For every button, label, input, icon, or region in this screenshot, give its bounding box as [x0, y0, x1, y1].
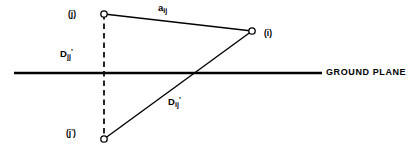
node-j-prime-label: (j') [66, 128, 76, 138]
edge-label-a-ij: aij [158, 3, 167, 14]
edge-label-d-jj-prime-base: D [60, 48, 67, 59]
image-conductor-diagram: (j) (i) (j') aij Djj' Dij' GROUND PLANE [0, 0, 418, 152]
node-j-prime-circle [101, 136, 107, 142]
node-i-label: (i) [264, 29, 272, 38]
node-j-circle [101, 11, 107, 17]
node-j-label: (j) [68, 10, 76, 19]
edge-label-d-jj-prime-prime: ' [71, 47, 73, 56]
edge-label-d-jj-prime: Djj' [60, 48, 73, 60]
node-i-circle [249, 28, 255, 34]
node-j-prime-label-close: ) [73, 128, 76, 138]
edge-d-ij-prime-line [104, 31, 252, 139]
ground-plane-label: GROUND PLANE [326, 68, 406, 77]
edge-label-d-ij-prime-base: D [168, 96, 175, 107]
edge-label-d-ij-prime: Dij' [168, 96, 181, 108]
edge-label-a-ij-subscript: ij [163, 7, 167, 14]
edge-label-d-ij-prime-prime: ' [179, 95, 181, 104]
edge-a-ij-line [104, 14, 252, 31]
